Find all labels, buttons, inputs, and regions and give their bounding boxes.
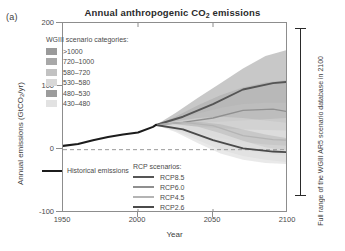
y-axis-title-sub: 2 bbox=[19, 94, 25, 97]
x-tick-mark bbox=[212, 212, 213, 217]
historical-emissions-line bbox=[63, 125, 156, 146]
rcp-legend-item: RCP4.5 bbox=[133, 192, 185, 202]
wg3-legend-item: 530–580 bbox=[46, 78, 128, 89]
wg3-label-430-480: 430–480 bbox=[63, 100, 90, 107]
rcp-legend-header: RCP scenarios: bbox=[133, 163, 185, 170]
rcp-legend-line-rcp85 bbox=[133, 176, 154, 178]
rcp-legend-label-rcp85: RCP8.5 bbox=[160, 174, 185, 181]
wg3-legend-item: 580–720 bbox=[46, 67, 128, 78]
x-tick-label-2100: 2100 bbox=[267, 215, 307, 224]
x-axis-title: Year bbox=[62, 230, 287, 239]
historical-legend-label: Historical emissions bbox=[67, 166, 129, 175]
chart-title-pre: Annual anthropogenic CO bbox=[85, 7, 206, 18]
rcp-legend-item: RCP8.5 bbox=[133, 172, 185, 182]
rcp-legend-label-rcp26: RCP2.6 bbox=[160, 204, 185, 211]
rcp-legend-label-rcp60: RCP6.0 bbox=[160, 184, 185, 191]
wg3-legend-item: 430–480 bbox=[46, 99, 128, 110]
historical-legend-line bbox=[42, 170, 62, 172]
wg3-label-gt1000: >1000 bbox=[63, 48, 83, 55]
bracket-cap-top bbox=[295, 28, 306, 29]
wg3-label-580-720: 580–720 bbox=[63, 69, 90, 76]
y-axis-title: Annual emissions (GtCO2/yr) bbox=[16, 82, 25, 185]
wg3-swatch-720-1000 bbox=[46, 58, 57, 65]
y-axis-title-post: /yr) bbox=[16, 82, 25, 94]
historical-legend: Historical emissions bbox=[42, 166, 129, 175]
wg3-legend-item: 720–1000 bbox=[46, 57, 128, 68]
rcp-legend-line-rcp45 bbox=[133, 196, 154, 198]
wg3-legend-header: WGIII scenario categories: bbox=[46, 36, 128, 43]
wg3-swatch-gt1000 bbox=[46, 48, 57, 55]
wg3-label-720-1000: 720–1000 bbox=[63, 58, 94, 65]
x-tick-label-1950: 1950 bbox=[42, 215, 82, 224]
rcp-legend: RCP scenarios: RCP8.5 RCP6.0 RCP4.5 RCP2… bbox=[133, 163, 185, 212]
wg3-swatch-580-720 bbox=[46, 69, 57, 76]
wg3-legend-item: 480–530 bbox=[46, 88, 128, 99]
chart-title-post: emissions bbox=[210, 7, 261, 18]
wg3-label-480-530: 480–530 bbox=[63, 90, 90, 97]
bracket-cap-bottom bbox=[295, 195, 306, 196]
rcp-legend-line-rcp60 bbox=[133, 186, 154, 188]
x-tick-mark bbox=[137, 212, 138, 217]
wg3-scenario-legend: WGIII scenario categories: >1000 720–100… bbox=[46, 36, 128, 109]
full-range-annotation-text: Full range of the WGIII AR5 scenario dat… bbox=[316, 56, 325, 226]
rcp-legend-item: RCP6.0 bbox=[133, 182, 185, 192]
wg3-label-530-580: 530–580 bbox=[63, 79, 90, 86]
rcp-legend-item: RCP2.6 bbox=[133, 202, 185, 212]
series-bands bbox=[156, 50, 287, 165]
y-axis-title-pre: Annual emissions (GtCO bbox=[16, 97, 25, 185]
wg3-swatch-430-480 bbox=[46, 100, 57, 107]
full-range-bracket bbox=[300, 28, 301, 196]
rcp-legend-line-rcp26 bbox=[133, 206, 154, 208]
wg3-swatch-530-580 bbox=[46, 79, 57, 86]
y-tick-label-200: 200 bbox=[14, 18, 54, 27]
wg3-legend-item: >1000 bbox=[46, 46, 128, 57]
chart-title: Annual anthropogenic CO2 emissions bbox=[0, 7, 345, 19]
rcp-legend-label-rcp45: RCP4.5 bbox=[160, 194, 185, 201]
wg3-swatch-480-530 bbox=[46, 90, 57, 97]
